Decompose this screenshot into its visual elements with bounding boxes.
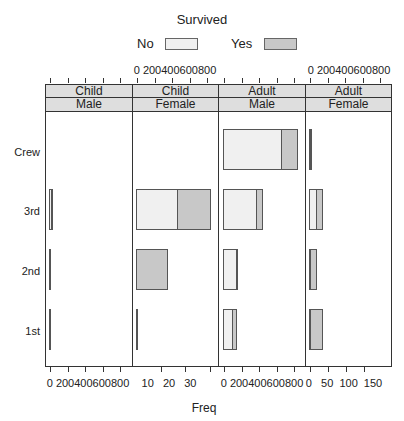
- legend-swatch-no: [165, 38, 198, 50]
- bar-2nd-yes: [236, 249, 238, 290]
- bar-crew-yes: [281, 129, 298, 170]
- tick-mark: [277, 78, 278, 83]
- tick-mark: [210, 367, 211, 372]
- strip-age: Child: [45, 84, 133, 98]
- tick-mark: [50, 78, 51, 83]
- bar-2nd-yes: [49, 249, 51, 290]
- strip-age: Adult: [218, 84, 306, 98]
- tick-mark: [190, 78, 191, 83]
- tick-mark: [120, 78, 121, 83]
- tick-mark: [328, 78, 329, 83]
- bar-3rd-yes: [51, 189, 53, 230]
- bottom-axis-labels-panel-2: 10 20 30: [142, 377, 197, 389]
- tick-mark: [380, 78, 381, 83]
- bar-3rd-yes: [316, 189, 323, 230]
- tick-mark: [207, 78, 208, 83]
- tick-mark: [68, 367, 69, 372]
- tick-mark: [242, 367, 243, 372]
- tick-mark: [172, 78, 173, 83]
- panel-child-male: [45, 84, 133, 367]
- bar-2nd-no: [223, 249, 237, 290]
- bottom-axis-labels-panel-4: 0 50 100 150: [306, 377, 382, 389]
- bar-crew-yes: [310, 129, 312, 170]
- bar-3rd-yes: [256, 189, 263, 230]
- bar-crew-no: [223, 129, 282, 170]
- tick-mark: [68, 78, 69, 83]
- y-label-1st: 1st: [0, 325, 40, 337]
- bar-1st-yes: [136, 309, 138, 350]
- tick-mark: [85, 78, 86, 83]
- tick-mark: [294, 78, 295, 83]
- legend-title: Survived: [0, 12, 404, 27]
- plot-area: ChildMaleChildFemaleAdultMaleAdultFemale: [45, 84, 391, 367]
- tick-mark: [328, 367, 329, 372]
- bar-1st-yes: [310, 309, 323, 350]
- y-label-crew: Crew: [0, 146, 40, 158]
- strip-sex: Female: [305, 97, 392, 112]
- tick-mark: [85, 367, 86, 372]
- tick-mark: [161, 367, 162, 372]
- tick-mark: [155, 78, 156, 83]
- strip-sex: Male: [45, 97, 133, 112]
- top-axis-labels-panel-4: 0 200400600800: [308, 64, 391, 76]
- tick-mark: [310, 367, 311, 372]
- strip-sex: Male: [218, 97, 306, 112]
- tick-mark: [224, 367, 225, 372]
- tick-mark: [242, 78, 243, 83]
- tick-mark: [259, 367, 260, 372]
- tick-mark: [345, 78, 346, 83]
- tick-mark: [277, 367, 278, 372]
- tick-mark: [363, 78, 364, 83]
- legend-swatch-yes: [264, 38, 297, 50]
- strip-age: Adult: [305, 84, 392, 98]
- tick-mark: [310, 78, 311, 83]
- tick-mark: [364, 367, 365, 372]
- bottom-axis-labels-panel-1: 0 200400600800: [47, 377, 130, 389]
- bar-2nd-yes: [310, 249, 317, 290]
- tick-mark: [50, 367, 51, 372]
- bar-3rd-no: [136, 189, 178, 230]
- tick-mark: [120, 367, 121, 372]
- tick-mark: [185, 367, 186, 372]
- bar-1st-yes: [232, 309, 237, 350]
- bottom-axis-labels-panel-3: 0 200400600800: [221, 377, 304, 389]
- tick-mark: [224, 78, 225, 83]
- tick-mark: [259, 78, 260, 83]
- tick-mark: [137, 78, 138, 83]
- strip-age: Child: [132, 84, 219, 98]
- tick-mark: [294, 367, 295, 372]
- bar-3rd-yes: [177, 189, 211, 230]
- y-label-2nd: 2nd: [0, 265, 40, 277]
- bar-2nd-yes: [136, 249, 168, 290]
- bar-1st-yes: [49, 309, 51, 350]
- tick-mark: [103, 78, 104, 83]
- tick-mark: [103, 367, 104, 372]
- tick-mark: [346, 367, 347, 372]
- legend-label-yes: Yes: [231, 36, 252, 51]
- x-axis-label: Freq: [192, 401, 217, 415]
- legend-label-no: No: [137, 36, 154, 51]
- bar-3rd-no: [223, 189, 257, 230]
- y-label-3rd: 3rd: [0, 205, 40, 217]
- strip-sex: Female: [132, 97, 219, 112]
- top-axis-labels-panel-2: 0 200400600800: [134, 64, 217, 76]
